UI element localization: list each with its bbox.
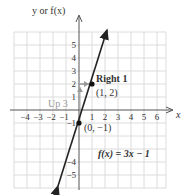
up-3-label: Up 3 <box>48 98 68 109</box>
svg-text:−1: −1 <box>66 118 76 128</box>
svg-text:−5: −5 <box>66 170 76 180</box>
svg-text:1: 1 <box>72 92 77 102</box>
point-0-neg1-label: (0, −1) <box>84 122 111 134</box>
point-0-neg1 <box>76 120 81 125</box>
x-tick-labels: −4 −3 −2 −1 1 2 3 4 5 6 <box>20 112 160 122</box>
svg-text:−4: −4 <box>66 157 76 167</box>
svg-text:3: 3 <box>116 112 121 122</box>
svg-text:6: 6 <box>155 112 160 122</box>
svg-text:−2: −2 <box>46 112 56 122</box>
svg-text:−4: −4 <box>20 112 30 122</box>
svg-text:2: 2 <box>72 79 77 89</box>
point-1-2-label: (1, 2) <box>96 87 118 99</box>
y-axis-label: y or f(x) <box>32 5 65 17</box>
right-1-label: Right 1 <box>96 73 127 84</box>
equation-label: f(x) = 3x − 1 <box>98 148 150 160</box>
svg-text:3: 3 <box>72 66 77 76</box>
svg-text:5: 5 <box>72 40 77 50</box>
svg-text:−3: −3 <box>33 112 43 122</box>
svg-text:2: 2 <box>103 112 108 122</box>
svg-text:4: 4 <box>72 53 77 63</box>
svg-text:4: 4 <box>129 112 134 122</box>
point-1-2 <box>89 81 94 86</box>
svg-text:5: 5 <box>142 112 147 122</box>
svg-text:1: 1 <box>90 112 95 122</box>
x-axis-label: x <box>175 109 181 120</box>
function-graph: y or f(x) x −4 −3 −2 −1 1 2 3 4 5 6 5 4 … <box>0 0 194 195</box>
